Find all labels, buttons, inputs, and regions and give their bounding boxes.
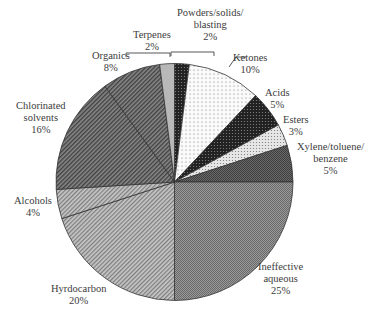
label-alcohols: Alcohols 4%: [14, 195, 52, 219]
label-value: 2%: [133, 41, 171, 53]
label-value: 4%: [14, 207, 52, 219]
label-text: Xylene/toluene/: [297, 141, 364, 153]
label-value: 16%: [16, 124, 66, 136]
label-esters: Esters 3%: [283, 114, 309, 138]
label-text: Powders/solids/: [177, 7, 244, 19]
label-organics: Organics 8%: [92, 50, 130, 74]
label-value: 25%: [258, 285, 303, 297]
label-text: Hyrdocarbon: [51, 283, 106, 295]
label-text: Ineffective: [258, 261, 303, 273]
label-text: Ketones: [233, 52, 267, 64]
label-text: Terpenes: [133, 29, 171, 41]
label-powders: Powders/solids/ blasting 2%: [177, 7, 244, 43]
label-acids: Acids 5%: [265, 87, 290, 111]
label-text: Acids: [265, 87, 290, 99]
label-text: Chlorinated: [16, 100, 66, 112]
label-value: 5%: [297, 165, 364, 177]
label-text: solvents: [16, 112, 66, 124]
label-text: Organics: [92, 50, 130, 62]
label-value: 20%: [51, 295, 106, 307]
label-value: 3%: [283, 126, 309, 138]
label-ketones: Ketones 10%: [233, 52, 267, 76]
label-xylene: Xylene/toluene/ benzene 5%: [297, 141, 364, 177]
label-text: Alcohols: [14, 195, 52, 207]
label-value: 5%: [265, 99, 290, 111]
label-text: benzene: [297, 153, 364, 165]
label-aqueous: Ineffective aqueous 25%: [258, 261, 303, 297]
label-text: Esters: [283, 114, 309, 126]
label-value: 2%: [177, 31, 244, 43]
label-text: blasting: [177, 19, 244, 31]
label-value: 8%: [92, 62, 130, 74]
label-chlorinated: Chlorinated solvents 16%: [16, 100, 66, 136]
label-value: 10%: [233, 64, 267, 76]
label-text: aqueous: [258, 273, 303, 285]
label-hydrocarbon: Hyrdocarbon 20%: [51, 283, 106, 307]
label-terpenes: Terpenes 2%: [133, 29, 171, 53]
